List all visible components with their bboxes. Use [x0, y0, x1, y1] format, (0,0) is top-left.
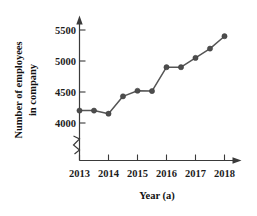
y-axis-arrow-icon	[76, 16, 82, 25]
line-chart: 4000 4500 5000 5500 2013 2014 2015 2016 …	[0, 0, 257, 216]
y-axis-tick-labels: 4000 4500 5000 5500	[55, 25, 76, 129]
data-point	[77, 108, 82, 113]
data-point	[178, 65, 183, 70]
data-point	[149, 88, 154, 93]
data-point	[207, 46, 212, 51]
series-line	[80, 36, 225, 114]
x-tick-label-2016: 2016	[156, 168, 177, 179]
data-point	[120, 94, 125, 99]
x-axis-tick-labels: 2013 2014 2015 2016 2017 2018	[69, 168, 235, 179]
data-point	[106, 111, 111, 116]
data-point	[91, 108, 96, 113]
x-axis-arrow-icon	[233, 157, 242, 163]
x-tick-label-2013: 2013	[69, 168, 90, 179]
x-tick-label-2017: 2017	[185, 168, 206, 179]
data-point	[164, 65, 169, 70]
y-axis-break-icon	[74, 136, 80, 154]
x-axis-ticks	[80, 155, 225, 161]
x-axis	[80, 157, 242, 163]
y-tick-label-5500: 5500	[55, 25, 76, 36]
y-tick-label-4500: 4500	[55, 87, 76, 98]
x-tick-label-2015: 2015	[127, 168, 148, 179]
data-point	[222, 34, 227, 39]
y-tick-label-4000: 4000	[55, 118, 76, 129]
chart-figure: 4000 4500 5000 5500 2013 2014 2015 2016 …	[0, 0, 257, 216]
x-tick-label-2014: 2014	[98, 168, 120, 179]
y-tick-label-5000: 5000	[55, 56, 76, 67]
data-point	[193, 55, 198, 60]
data-point	[135, 88, 140, 93]
x-axis-title: Year (a)	[139, 190, 175, 202]
y-axis-title-line1: Number of employees	[13, 41, 24, 138]
data-series	[77, 34, 227, 117]
series-markers	[77, 34, 227, 117]
y-axis-title-line2: in company	[27, 63, 38, 116]
x-tick-label-2018: 2018	[214, 168, 235, 179]
